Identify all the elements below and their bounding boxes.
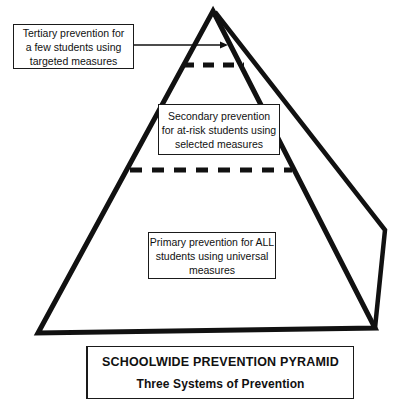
callout-tertiary-line-2: a few students using bbox=[26, 40, 122, 54]
callout-secondary: Secondary prevention for at-risk student… bbox=[158, 104, 280, 155]
callout-secondary-line-1: Secondary prevention bbox=[168, 109, 270, 123]
caption-subtitle: Three Systems of Prevention bbox=[136, 377, 304, 391]
callout-tertiary-line-1: Tertiary prevention for bbox=[23, 26, 125, 40]
callout-primary-line-3: measures bbox=[189, 263, 235, 277]
callout-primary-line-1: Primary prevention for ALL bbox=[150, 235, 274, 249]
figure-canvas: Tertiary prevention for a few students u… bbox=[0, 0, 397, 415]
caption-title: SCHOOLWIDE PREVENTION PYRAMID bbox=[102, 355, 339, 369]
callout-secondary-line-3: selected measures bbox=[175, 137, 263, 151]
callout-primary: Primary prevention for ALL students usin… bbox=[148, 232, 276, 279]
callout-tertiary: Tertiary prevention for a few students u… bbox=[13, 24, 134, 69]
callout-tertiary-line-3: targeted measures bbox=[30, 54, 118, 68]
callout-primary-line-2: students using universal bbox=[156, 249, 269, 263]
callout-secondary-line-2: for at-risk students using bbox=[162, 123, 276, 137]
caption-box: SCHOOLWIDE PREVENTION PYRAMID Three Syst… bbox=[86, 346, 354, 399]
